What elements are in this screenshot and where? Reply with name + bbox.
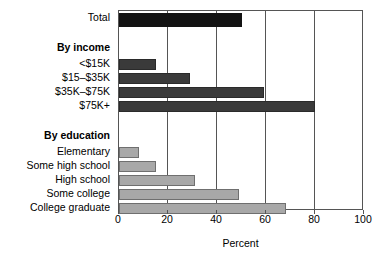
bar: [119, 175, 195, 186]
bar: [119, 189, 239, 200]
plot-area: [118, 10, 363, 210]
bar: [119, 87, 264, 98]
category-label: <$15K: [79, 58, 110, 69]
category-label: $35K–$75K: [55, 86, 110, 97]
category-label: Total: [88, 12, 110, 23]
bar-chart: TotalBy income<$15K$15–$35K$35K–$75K$75K…: [0, 0, 388, 261]
category-label: High school: [55, 174, 110, 185]
bar: [119, 147, 139, 158]
x-tick-label: 100: [354, 214, 372, 225]
category-label: Some high school: [27, 160, 110, 171]
x-tick-label: 40: [210, 214, 222, 225]
x-tick-label: 60: [259, 214, 271, 225]
x-tick-label: 80: [308, 214, 320, 225]
group-heading: By education: [44, 130, 110, 141]
category-label: $75K+: [79, 100, 110, 111]
x-axis: 020406080100: [118, 210, 363, 226]
bar: [119, 73, 190, 84]
bar: [119, 161, 156, 172]
x-tick-label: 20: [161, 214, 173, 225]
category-label: Elementary: [57, 146, 110, 157]
category-label: $15–$35K: [62, 72, 110, 83]
bar: [119, 13, 242, 27]
x-tick-label: 0: [115, 214, 121, 225]
bar: [119, 101, 315, 112]
x-axis-title: Percent: [118, 238, 363, 249]
group-heading: By income: [57, 42, 110, 53]
category-label-column: TotalBy income<$15K$15–$35K$35K–$75K$75K…: [0, 8, 114, 210]
bar: [119, 59, 156, 70]
category-label: Some college: [46, 188, 110, 199]
category-label: College graduate: [30, 202, 110, 213]
